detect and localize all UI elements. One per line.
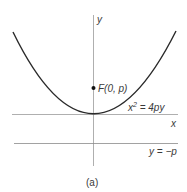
x-axis-label: x	[170, 118, 177, 129]
parabola-diagram: y x F(0, p) x2 = 4py y = −p (a)	[0, 0, 187, 192]
directrix-label: y = −p	[148, 146, 177, 157]
focus-label: F(0, p)	[98, 83, 127, 94]
focus-point	[92, 86, 96, 90]
equation-rest: = 4py	[137, 102, 166, 113]
y-axis-label: y	[96, 14, 103, 25]
equation-label: x2 = 4py	[127, 101, 165, 113]
figure-caption: (a)	[86, 177, 98, 188]
